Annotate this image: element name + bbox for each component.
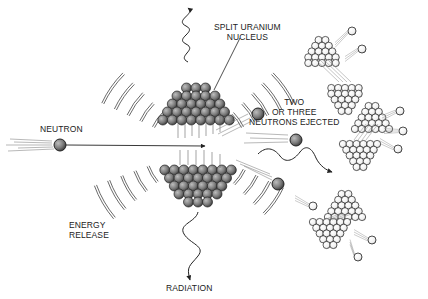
nucleon bbox=[174, 189, 184, 199]
energy-wave-arc bbox=[127, 93, 143, 115]
fission-diagram bbox=[0, 0, 428, 299]
secondary-neutron bbox=[354, 230, 376, 245]
label-energy-release: ENERGY RELEASE bbox=[69, 220, 109, 240]
energy-wave-arc bbox=[147, 167, 156, 183]
radiation-wave-right bbox=[258, 148, 332, 172]
radiation-wave-down bbox=[183, 212, 200, 280]
energy-wave-arc bbox=[255, 182, 271, 205]
neutron-path-arrow bbox=[66, 145, 205, 146]
nucleon bbox=[351, 125, 358, 132]
nucleon bbox=[203, 197, 213, 207]
nucleon bbox=[332, 59, 339, 66]
motion-streaks bbox=[6, 139, 54, 151]
label-radiation: RADIATION bbox=[166, 283, 213, 293]
nucleon bbox=[186, 115, 196, 125]
ejected-neutron-2 bbox=[244, 133, 302, 146]
nucleon bbox=[353, 163, 360, 170]
energy-wave-arc bbox=[235, 170, 245, 185]
label-line: RELEASE bbox=[69, 230, 109, 240]
nucleus-leader-line bbox=[214, 38, 240, 90]
nucleon bbox=[330, 241, 337, 248]
energy-wave-arc bbox=[234, 113, 244, 127]
secondary-neutron bbox=[295, 196, 317, 211]
nucleon bbox=[167, 115, 177, 125]
radiation-wave-up bbox=[182, 8, 189, 62]
energy-wave-arc bbox=[110, 180, 126, 208]
energy-wave-arc bbox=[140, 103, 153, 121]
nucleon bbox=[323, 241, 330, 248]
energy-wave-arc bbox=[243, 175, 256, 193]
label-split-uranium-nucleus: SPLIT URANIUM NUCLEUS bbox=[214, 22, 281, 42]
nucleon bbox=[352, 213, 359, 220]
secondary-neutron bbox=[382, 107, 404, 121]
nucleon bbox=[312, 59, 319, 66]
nucleon bbox=[193, 197, 203, 207]
energy-wave-arc bbox=[123, 175, 137, 199]
energy-wave-arc bbox=[129, 94, 144, 116]
secondary-neutron bbox=[350, 240, 362, 262]
nucleon bbox=[212, 189, 222, 199]
secondary-neutron bbox=[335, 27, 356, 48]
energy-wave-arc bbox=[265, 188, 284, 215]
label-line: TWO bbox=[249, 97, 339, 107]
secondary-neutron bbox=[345, 45, 366, 62]
secondary-nucleus bbox=[339, 140, 380, 170]
energy-wave-arc bbox=[134, 171, 146, 192]
label-neutron: NEUTRON bbox=[40, 124, 83, 134]
energy-wave-arc bbox=[253, 181, 269, 203]
label-line: SPLIT URANIUM bbox=[214, 22, 281, 32]
energy-wave-arc bbox=[114, 83, 132, 109]
nucleon bbox=[345, 107, 352, 114]
label-line: ENERGY bbox=[69, 220, 109, 230]
label-line: OR THREE bbox=[249, 107, 339, 117]
secondary-nucleus bbox=[351, 102, 392, 132]
energy-wave-arc bbox=[245, 176, 258, 195]
energy-wave-arc bbox=[108, 181, 125, 210]
nucleon bbox=[359, 213, 366, 220]
nucleon bbox=[379, 125, 386, 132]
energy-wave-arc bbox=[142, 104, 154, 122]
secondary-nucleus bbox=[309, 218, 350, 248]
nucleon bbox=[360, 163, 367, 170]
label-line: NUCLEUS bbox=[214, 32, 281, 42]
split-nucleus-lower bbox=[160, 165, 237, 207]
energy-wave-arc bbox=[94, 186, 113, 219]
energy-wave-arc bbox=[104, 75, 125, 105]
nucleon bbox=[196, 115, 206, 125]
label-neutrons-ejected: TWO OR THREE NEUTRONS EJECTED bbox=[249, 97, 339, 127]
neutron-particle bbox=[54, 139, 66, 151]
nucleon bbox=[184, 197, 194, 207]
secondary-fissions bbox=[295, 27, 407, 261]
label-line: NEUTRONS EJECTED bbox=[249, 117, 339, 127]
nucleon bbox=[372, 125, 379, 132]
nucleon bbox=[158, 115, 168, 125]
ejected-neutron-3 bbox=[236, 160, 284, 190]
nucleon bbox=[305, 59, 312, 66]
split-nucleus-upper bbox=[158, 83, 235, 125]
secondary-neutron bbox=[380, 139, 402, 154]
energy-wave-arc bbox=[121, 176, 135, 201]
nucleon bbox=[205, 115, 215, 125]
secondary-nucleus bbox=[324, 190, 365, 220]
energy-wave-arc bbox=[97, 185, 116, 218]
incoming-neutron bbox=[6, 139, 205, 151]
